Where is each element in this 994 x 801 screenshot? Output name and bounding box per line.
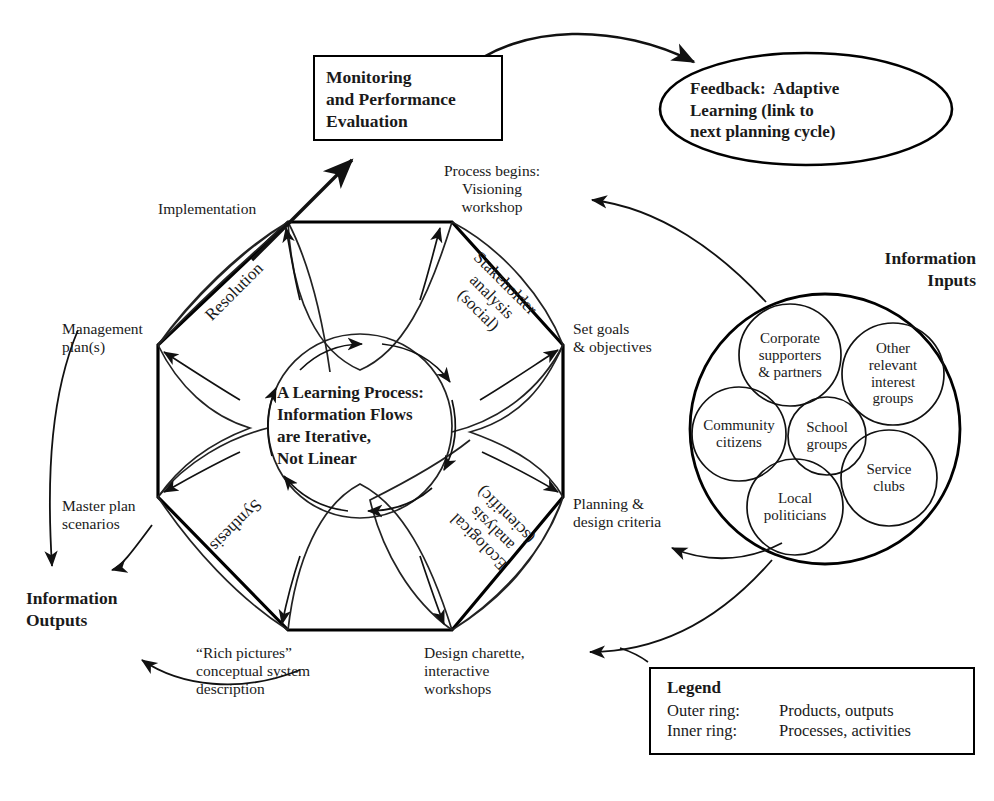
outer-ring-label-management-plan: Management plan(s) (62, 320, 212, 356)
legend-title: Legend (667, 678, 959, 698)
legend-value-outer-ring: Products, outputs (779, 701, 959, 721)
information-inputs-title: Information Inputs (790, 248, 976, 292)
legend-row-inner-ring: Inner ring: Processes, activities (667, 721, 959, 741)
outer-ring-label-rich-pictures: “Rich pictures” conceptual system descri… (196, 644, 396, 698)
legend-key-outer-ring: Outer ring: (667, 701, 779, 721)
legend-key-inner-ring: Inner ring: (667, 721, 779, 741)
outer-ring-label-process-begins: Process begins: Visioning workshop (412, 162, 572, 216)
cluster-label-community-citizens: Community citizens (703, 417, 775, 451)
cluster-label-other-relevant-interest-groups: Other relevant interest groups (869, 340, 917, 407)
outer-ring-label-master-plan: Master plan scenarios (62, 497, 212, 533)
feedback-ellipse-label: Feedback: Adaptive Learning (link to nex… (690, 78, 920, 143)
legend-row-outer-ring: Outer ring: Products, outputs (667, 701, 959, 721)
outer-ring-label-design-charette: Design charette, interactive workshops (424, 644, 584, 698)
legend-box: Legend Outer ring: Products, outputs Inn… (649, 667, 975, 755)
information-outputs-title: Information Outputs (26, 588, 206, 632)
cluster-label-service-clubs: Service clubs (867, 461, 912, 495)
cluster-label-school-groups: School groups (806, 419, 848, 453)
center-learning-process-label: A Learning Process: Information Flows ar… (277, 382, 467, 470)
cluster-label-local-politicians: Local politicians (764, 490, 827, 524)
legend-value-inner-ring: Processes, activities (779, 721, 959, 741)
figure-caption (18, 786, 438, 800)
legend-leader-line (620, 648, 648, 662)
monitoring-box-label: Monitoring and Performance Evaluation (315, 57, 501, 140)
outer-ring-label-planning-design: Planning & design criteria (573, 495, 723, 531)
outer-ring-label-set-goals: Set goals & objectives (573, 320, 723, 356)
cluster-label-corporate-supporters: Corporate supporters & partners (758, 330, 822, 380)
outer-ring-label-implementation: Implementation (158, 200, 338, 218)
figure-canvas: Monitoring and Performance Evaluation Fe… (0, 0, 994, 801)
monitoring-and-performance-evaluation-box[interactable]: Monitoring and Performance Evaluation (313, 55, 503, 141)
